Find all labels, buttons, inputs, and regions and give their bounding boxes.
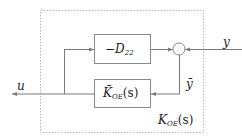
minus-sign: −	[105, 42, 115, 56]
signal-label-ybar: ȳ	[186, 78, 193, 90]
k-symbol: K	[158, 113, 167, 127]
d-symbol: D	[115, 42, 125, 56]
d-subscript: 22	[125, 49, 134, 57]
block-label-minus-d22: −D22	[105, 43, 134, 57]
kbar-argument: (s)	[123, 86, 139, 100]
diagram-canvas	[0, 0, 242, 140]
kbar-subscript: OE	[112, 93, 123, 101]
block-diagram: −D22 K̄OE(s) KOE(s) u y ȳ	[0, 0, 242, 140]
signal-label-u: u	[17, 80, 25, 92]
signal-label-y: y	[223, 36, 230, 48]
block-label-kbar-oe: K̄OE(s)	[103, 87, 138, 101]
summing-junction	[173, 43, 185, 55]
outer-box-label: KOE(s)	[158, 114, 193, 128]
k-subscript: OE	[167, 120, 178, 128]
k-argument: (s)	[178, 113, 194, 127]
kbar-symbol: K̄	[103, 86, 112, 100]
